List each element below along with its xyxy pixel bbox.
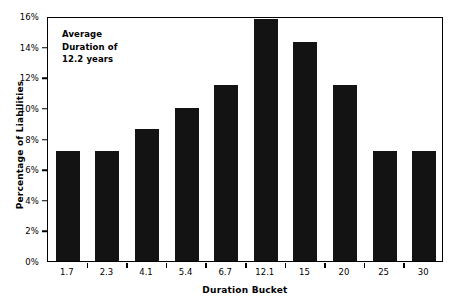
y-tick-label: 14% bbox=[20, 43, 39, 53]
x-tick-label: 2.3 bbox=[100, 267, 114, 277]
x-tick-mark bbox=[364, 263, 366, 268]
x-tick-label: 1.7 bbox=[60, 267, 74, 277]
y-tick-label: 2% bbox=[25, 226, 39, 236]
x-tick-label: 5.4 bbox=[179, 267, 193, 277]
bar bbox=[254, 19, 278, 261]
bar bbox=[333, 85, 357, 261]
annotation-line-2: Duration of bbox=[62, 41, 118, 54]
x-tick-label: 12.1 bbox=[255, 267, 274, 277]
y-tick-label: 6% bbox=[25, 165, 39, 175]
bar bbox=[412, 151, 436, 261]
bar bbox=[373, 151, 397, 261]
y-tick-label: 10% bbox=[20, 104, 39, 114]
bar bbox=[214, 85, 238, 261]
x-tick-mark bbox=[166, 263, 168, 268]
annotation-line-3: 12.2 years bbox=[62, 53, 118, 66]
x-tick-label: 4.1 bbox=[139, 267, 153, 277]
x-tick-label: 15 bbox=[299, 267, 310, 277]
y-tick-label: 8% bbox=[25, 135, 39, 145]
x-tick-mark bbox=[126, 263, 128, 268]
x-tick-mark bbox=[205, 263, 207, 268]
bar bbox=[56, 151, 80, 261]
x-tick-mark bbox=[285, 263, 287, 268]
bar-chart: Percentage of Liabilities 0%2%4%6%8%10%1… bbox=[0, 0, 453, 306]
annotation-line-1: Average bbox=[62, 28, 118, 41]
x-tick-label: 25 bbox=[378, 267, 389, 277]
x-tick-label: 30 bbox=[418, 267, 429, 277]
x-tick-mark bbox=[403, 263, 405, 268]
x-tick-mark bbox=[245, 263, 247, 268]
y-tick-label: 12% bbox=[20, 73, 39, 83]
x-tick-label: 20 bbox=[339, 267, 350, 277]
y-tick-label: 0% bbox=[25, 257, 39, 267]
x-tick-mark bbox=[324, 263, 326, 268]
y-axis: 0%2%4%6%8%10%12%14%16% bbox=[0, 0, 47, 306]
y-tick-label: 4% bbox=[25, 196, 39, 206]
bar bbox=[135, 129, 159, 261]
bar bbox=[175, 108, 199, 261]
y-tick-label: 16% bbox=[20, 12, 39, 22]
x-tick-label: 6.7 bbox=[218, 267, 232, 277]
bar bbox=[293, 42, 317, 261]
x-axis: 1.72.34.15.46.712.115202530 bbox=[47, 263, 443, 283]
x-tick-mark bbox=[87, 263, 89, 268]
average-duration-annotation: Average Duration of 12.2 years bbox=[62, 28, 118, 66]
bar bbox=[95, 151, 119, 261]
x-axis-title: Duration Bucket bbox=[47, 285, 443, 295]
